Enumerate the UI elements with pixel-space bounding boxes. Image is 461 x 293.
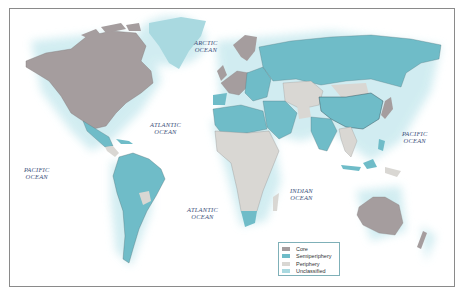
ocean-label-line1: ATLANTIC — [150, 121, 181, 128]
world-map — [10, 9, 455, 287]
legend-item-semiperiphery: Semiperiphery — [282, 253, 336, 261]
legend-item-core: Core — [282, 245, 336, 253]
map-frame: ARCTIC OCEAN ATLANTIC OCEAN PACIFIC OCEA… — [9, 8, 455, 287]
ocean-label-line1: ATLANTIC — [187, 206, 218, 213]
ocean-label-line2: OCEAN — [290, 194, 313, 201]
ocean-label-line2: OCEAN — [402, 137, 427, 144]
ocean-label-line1: PACIFIC — [24, 166, 49, 173]
legend-label: Periphery — [296, 261, 320, 267]
ocean-label-line2: OCEAN — [24, 173, 49, 180]
ocean-label-line2: OCEAN — [194, 46, 218, 53]
ocean-label-line2: OCEAN — [150, 128, 181, 135]
afghanistan — [297, 105, 311, 119]
ocean-label-line1: INDIAN — [290, 187, 313, 194]
ocean-label-line1: PACIFIC — [402, 130, 427, 137]
legend-swatch-unclassified — [282, 269, 290, 273]
legend-item-periphery: Periphery — [282, 260, 336, 268]
caribbean — [116, 139, 133, 144]
legend-label: Core — [296, 246, 308, 252]
ocean-label-line1: ARCTIC — [194, 39, 218, 46]
legend-swatch-semiperiphery — [282, 254, 290, 258]
legend-label: Unclassified — [296, 268, 326, 274]
korea — [375, 105, 379, 113]
legend-item-unclassified: Unclassified — [282, 268, 336, 276]
ocean-label-arctic: ARCTIC OCEAN — [194, 39, 218, 53]
ocean-label-indian: INDIAN OCEAN — [290, 187, 313, 201]
legend-swatch-core — [282, 247, 290, 251]
papua — [385, 167, 401, 177]
central-america — [105, 146, 119, 157]
ocean-label-atlantic-north: ATLANTIC OCEAN — [150, 121, 181, 135]
legend-swatch-periphery — [282, 262, 290, 266]
ocean-label-pacific-east: PACIFIC OCEAN — [24, 166, 49, 180]
ocean-label-atlantic-south: ATLANTIC OCEAN — [187, 206, 218, 220]
map-legend: Core Semiperiphery Periphery Unclassifie… — [278, 242, 340, 276]
legend-label: Semiperiphery — [296, 253, 331, 259]
ocean-label-pacific-west: PACIFIC OCEAN — [402, 130, 427, 144]
ocean-label-line2: OCEAN — [187, 213, 218, 220]
iberia — [213, 93, 227, 105]
